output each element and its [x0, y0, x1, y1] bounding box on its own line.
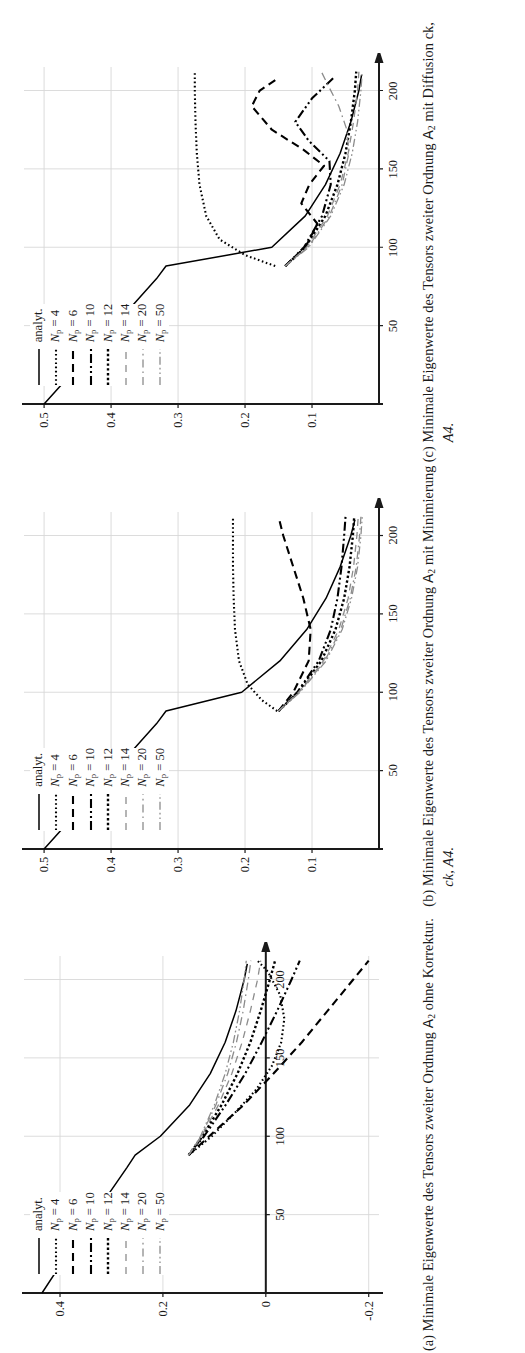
caption-c-line2-post: mit Diffusion ck,	[420, 22, 436, 125]
legend-line-swatch	[136, 793, 150, 831]
plot-area-a: 50100150200-0.200.20.4analyt.Np = 4Np = …	[14, 905, 409, 1337]
x-tick-label: 100	[386, 238, 401, 257]
legend-line-swatch	[66, 1237, 80, 1275]
y-tick-label: -0.2	[361, 1301, 376, 1321]
figure-subplot-row: 50100150200-0.200.20.4analyt.Np = 4Np = …	[0, 0, 525, 1353]
chart-legend: analyt.Np = 4Np = 6Np = 10Np = 12Np = 14…	[30, 748, 169, 831]
rotated-figure-canvas: 50100150200-0.200.20.4analyt.Np = 4Np = …	[0, 0, 525, 1353]
legend-line-swatch	[153, 1237, 167, 1275]
caption-c-line2-pre: zweiter Ordnung	[420, 140, 436, 242]
legend-item: Np = 12	[100, 304, 117, 387]
legend-line-swatch	[66, 348, 80, 386]
legend-line-swatch	[119, 793, 133, 831]
caption-b-line1: Minimale Eigenwerte des Tensors	[420, 688, 436, 886]
chart-svg	[14, 498, 409, 893]
x-tick-label: 50	[386, 320, 401, 332]
subplot-panel-b: 501001502000.10.20.30.40.5analyt.Np = 4N…	[14, 454, 519, 898]
legend-item-label: Np = 20	[136, 1192, 149, 1231]
caption-a-line1: Minimale Eigenwerte des Tensors	[420, 1134, 436, 1332]
caption-b-tag: (b)	[420, 890, 436, 907]
legend-item-label: Np = 14	[119, 1192, 132, 1231]
legend-item-label: Np = 20	[136, 748, 149, 787]
legend-item-label: analyt.	[32, 308, 45, 342]
legend-line-swatch	[119, 1237, 133, 1275]
y-tick-label: 0.3	[171, 857, 186, 873]
plot-area-b: 501001502000.10.20.30.40.5analyt.Np = 4N…	[14, 460, 409, 892]
legend-item-label: Np = 6	[67, 1199, 80, 1231]
caption-c-tag: (c)	[420, 446, 436, 462]
y-tick-label: 0.3	[171, 412, 186, 428]
caption-a-line2-pre: zweiter Ordnung	[420, 1028, 436, 1130]
subplot-panel-c: 501001502000.10.20.30.40.5analyt.Np = 4N…	[14, 10, 519, 454]
caption-c-line3: A4.	[440, 423, 456, 443]
legend-item: Np = 10	[82, 748, 99, 831]
caption-b-line2-pre: zweiter Ordnung	[420, 583, 436, 685]
legend-line-swatch	[49, 793, 63, 831]
legend-item-label: analyt.	[32, 1197, 45, 1231]
legend-line-swatch	[32, 1237, 46, 1275]
legend-item-label: Np = 14	[119, 748, 132, 787]
x-tick-label: 150	[386, 160, 401, 179]
legend-item-label: Np = 12	[102, 748, 115, 787]
legend-line-swatch	[32, 793, 46, 831]
legend-line-swatch	[136, 348, 150, 386]
chart-legend: analyt.Np = 4Np = 6Np = 10Np = 12Np = 14…	[30, 304, 169, 387]
x-tick-label: 50	[273, 1208, 288, 1220]
legend-item: Np = 14	[117, 748, 134, 831]
legend-item: Np = 50	[152, 1192, 169, 1275]
caption-b: (b) Minimale Eigenwerte des Tensors zwei…	[419, 460, 457, 892]
y-tick-label: 0.4	[104, 857, 119, 873]
legend-item-label: Np = 50	[154, 1192, 167, 1231]
legend-item: Np = 10	[82, 304, 99, 387]
x-tick-label: 200	[386, 82, 401, 101]
legend-item: Np = 50	[152, 304, 169, 387]
y-tick-label: 0.2	[238, 412, 253, 428]
x-tick-label: 100	[386, 683, 401, 702]
legend-item: Np = 4	[47, 748, 64, 831]
legend-line-swatch	[66, 793, 80, 831]
y-tick-label: 0.4	[53, 1301, 68, 1317]
legend-item-label: Np = 6	[67, 310, 80, 342]
legend-item-label: Np = 10	[84, 1192, 97, 1231]
chart-svg	[14, 942, 409, 1337]
caption-c: (c) Minimale Eigenwerte des Tensors zwei…	[419, 16, 457, 448]
x-tick-label: 200	[386, 526, 401, 545]
legend-item: Np = 12	[100, 748, 117, 831]
caption-b-line2-post: mit Minimierung	[420, 465, 436, 568]
caption-c-tensor-sub: 2	[426, 125, 437, 130]
x-tick-label: 150	[386, 604, 401, 623]
y-tick-label: 0.2	[238, 857, 253, 873]
chart-svg	[14, 53, 409, 448]
caption-a-tensor-sub: 2	[426, 1014, 437, 1019]
subplot-panel-a: 50100150200-0.200.20.4analyt.Np = 4Np = …	[14, 899, 519, 1343]
y-tick-label: 0.1	[305, 857, 320, 873]
y-tick-label: 0.5	[37, 412, 52, 428]
legend-item: Np = 20	[134, 304, 151, 387]
legend-line-swatch	[101, 793, 115, 831]
legend-item-label: Np = 4	[49, 310, 62, 342]
legend-item: analyt.	[30, 748, 47, 831]
y-tick-label: 0.4	[104, 412, 119, 428]
legend-item: Np = 6	[65, 748, 82, 831]
legend-item: analyt.	[30, 304, 47, 387]
legend-item-label: Np = 12	[102, 1192, 115, 1231]
legend-line-swatch	[84, 793, 98, 831]
legend-line-swatch	[101, 348, 115, 386]
legend-item: Np = 4	[47, 304, 64, 387]
legend-item-label: Np = 10	[84, 304, 97, 343]
legend-item: Np = 14	[117, 304, 134, 387]
legend-line-swatch	[84, 348, 98, 386]
caption-a-line2-post: ohne Korrektur.	[420, 918, 436, 1014]
legend-item-label: Np = 4	[49, 754, 62, 786]
legend-line-swatch	[101, 1237, 115, 1275]
legend-item-label: Np = 6	[67, 754, 80, 786]
caption-b-tensor-sub: 2	[426, 569, 437, 574]
legend-item: Np = 50	[152, 748, 169, 831]
legend-line-swatch	[49, 1237, 63, 1275]
caption-a-tensor: A	[420, 1019, 436, 1028]
caption-c-line1: Minimale Eigenwerte des Tensors	[420, 245, 436, 443]
series-line	[285, 78, 333, 266]
y-tick-label: 0	[258, 1301, 273, 1307]
legend-item-label: analyt.	[32, 753, 45, 787]
legend-line-swatch	[153, 348, 167, 386]
